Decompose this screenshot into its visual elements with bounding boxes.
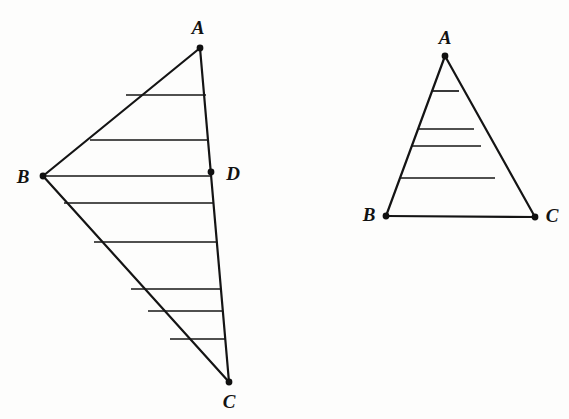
- vertex-label-a: A: [192, 18, 205, 37]
- vertex-dot-a: [197, 45, 204, 52]
- vertex-label-a: A: [439, 28, 452, 47]
- vertex-dot-c: [532, 214, 539, 221]
- vertex-dot-d: [208, 169, 215, 176]
- vertex-label-b: B: [363, 205, 376, 224]
- triangle-edge-ac: [445, 56, 535, 217]
- vertex-label-d: D: [226, 164, 240, 183]
- triangle-edge-bc: [43, 176, 229, 382]
- figure-canvas: ABCDABC: [0, 0, 569, 419]
- vertex-label-c: C: [223, 392, 236, 411]
- geometry-figure: [0, 0, 569, 419]
- vertex-label-c: C: [546, 206, 559, 225]
- vertex-dot-c: [226, 379, 233, 386]
- vertex-dot-b: [40, 173, 47, 180]
- triangle-edge-bc: [386, 216, 535, 217]
- triangle-edge-ab: [386, 56, 445, 216]
- triangle-edge-ac: [200, 48, 229, 382]
- vertex-dot-b: [383, 213, 390, 220]
- vertex-dot-a: [442, 53, 449, 60]
- triangle-edge-ab: [43, 48, 200, 176]
- left-triangle: [40, 45, 233, 386]
- vertex-label-b: B: [17, 167, 30, 186]
- right-triangle: [383, 53, 539, 221]
